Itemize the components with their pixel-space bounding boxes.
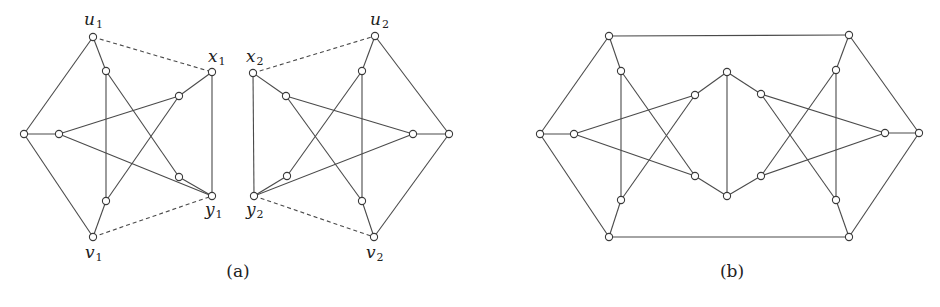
graph-vertex	[845, 233, 852, 240]
graph-figure: u1x1y1v1x2u2y2v2(a) (b)	[0, 0, 940, 307]
vertex-label: u2	[370, 9, 389, 31]
graph-vertex	[370, 233, 377, 240]
dashed-edge	[254, 196, 374, 237]
graph-vertex	[358, 197, 365, 204]
graph-vertex	[371, 32, 378, 39]
graph-vertex	[845, 31, 852, 38]
graph-vertex	[691, 172, 698, 179]
graph-edge	[254, 134, 413, 196]
graph-edge	[286, 96, 362, 201]
graph-vertex	[570, 130, 577, 137]
graph-edge	[59, 96, 179, 134]
panel-caption: (b)	[720, 261, 744, 281]
graph-vertex	[89, 33, 96, 40]
vertex-label: v2	[366, 242, 384, 264]
graph-vertex	[723, 192, 730, 199]
graph-vertex	[102, 197, 109, 204]
graph-vertex	[605, 233, 612, 240]
graph-vertex	[20, 130, 27, 137]
panel-a-two-graphs: u1x1y1v1x2u2y2v2(a)	[20, 9, 452, 281]
graph-edge	[374, 134, 449, 237]
graph-edge	[540, 134, 609, 237]
graph-edge	[609, 35, 849, 36]
graph-vertex	[175, 173, 182, 180]
panel-b-joined-graph: (b)	[536, 31, 922, 281]
graph-edge	[59, 134, 212, 196]
dashed-edge	[253, 36, 375, 73]
graph-vertex	[605, 32, 612, 39]
graph-edge	[621, 95, 695, 200]
graph-edge	[93, 201, 106, 237]
graph-vertex	[691, 91, 698, 98]
graph-vertex	[358, 67, 365, 74]
graph-edge	[254, 176, 287, 196]
graph-edge	[362, 36, 375, 71]
graph-edge	[695, 176, 727, 196]
graph-edge	[621, 71, 695, 176]
graph-edge	[179, 72, 212, 96]
graph-vertex	[832, 66, 839, 73]
graph-edge	[93, 37, 106, 71]
vertex-label: y1	[204, 199, 223, 221]
graph-edge	[540, 36, 609, 134]
vertex-label: y2	[245, 199, 264, 221]
graph-vertex	[282, 92, 289, 99]
vertex-label: x2	[246, 46, 264, 68]
graph-edge	[761, 133, 885, 176]
graph-vertex	[102, 67, 109, 74]
graph-edge	[286, 96, 413, 134]
graph-vertex	[208, 68, 215, 75]
graph-edge	[695, 72, 727, 95]
graph-edge	[761, 70, 836, 176]
vertex-label: x1	[208, 46, 226, 68]
graph-edge	[849, 133, 919, 237]
vertex-label: v1	[85, 242, 103, 264]
graph-edge	[574, 134, 695, 176]
graph-edge	[727, 176, 761, 196]
graph-edge	[287, 71, 362, 176]
graph-vertex	[55, 130, 62, 137]
graph-edge	[727, 72, 761, 94]
graph-vertex	[536, 130, 543, 137]
graph-edge	[609, 36, 621, 71]
graph-edge	[375, 36, 449, 134]
vertex-label: u1	[84, 9, 103, 31]
graph-vertex	[757, 172, 764, 179]
graph-vertex	[89, 233, 96, 240]
graph-edge	[836, 35, 849, 70]
graph-vertex	[249, 69, 256, 76]
graph-edge	[24, 37, 93, 134]
dashed-edge	[93, 37, 212, 72]
graph-vertex	[617, 196, 624, 203]
graph-vertex	[881, 129, 888, 136]
dashed-edge	[93, 196, 212, 237]
graph-vertex	[915, 129, 922, 136]
panel-caption: (a)	[226, 261, 249, 281]
graph-edge	[836, 200, 849, 237]
graph-edge	[24, 134, 93, 237]
graph-edge	[106, 71, 179, 177]
graph-edge	[253, 73, 254, 196]
graph-vertex	[445, 130, 452, 137]
graph-edge	[761, 94, 836, 200]
graph-vertex	[409, 130, 416, 137]
graph-vertex	[175, 92, 182, 99]
graph-edge	[106, 96, 179, 201]
graph-vertex	[283, 172, 290, 179]
graph-vertex	[617, 67, 624, 74]
graph-edge	[849, 35, 919, 133]
graph-edge	[761, 94, 885, 133]
graph-edge	[253, 73, 286, 96]
graph-edge	[179, 177, 212, 196]
graph-vertex	[723, 68, 730, 75]
graph-edge	[362, 201, 374, 237]
graph-vertex	[832, 196, 839, 203]
graph-edge	[609, 200, 621, 237]
graph-edge	[574, 95, 695, 134]
graph-vertex	[757, 90, 764, 97]
